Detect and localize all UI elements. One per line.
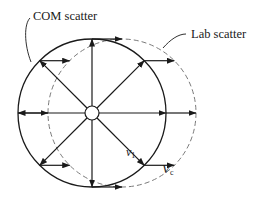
lab-scatter-label: Lab scatter — [191, 28, 246, 41]
v1-label: v1 — [126, 146, 135, 160]
lab-scatter-leader — [163, 34, 186, 48]
vc-subscript: c — [170, 168, 174, 177]
v1-subscript: 1 — [131, 151, 135, 160]
v1-arrow-315 — [97, 118, 144, 165]
com-scatter-leader — [26, 18, 31, 62]
vc-label: Vc — [162, 162, 174, 177]
v1-arrow-45 — [97, 61, 144, 108]
com-scatter-label: COM scatter — [33, 10, 97, 23]
center-origin-circle — [85, 106, 99, 120]
v1-arrow-225 — [40, 118, 87, 165]
vc-symbol: V — [162, 161, 170, 176]
